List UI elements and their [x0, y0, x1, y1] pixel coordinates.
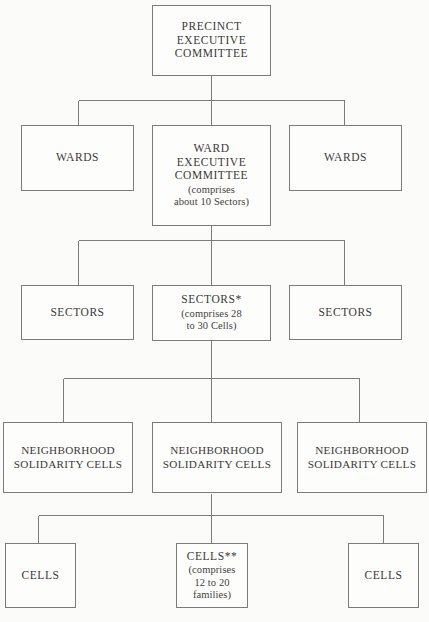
node-cells-right[interactable]: CELLS	[348, 543, 419, 608]
node-title: PRECINCT EXECUTIVE COMMITTEE	[175, 20, 248, 61]
node-title: SECTORS	[50, 306, 104, 320]
node-title: NEIGHBORHOOD SOLIDARITY CELLS	[163, 444, 272, 470]
node-title: WARD EXECUTIVE COMMITTEE	[175, 142, 248, 183]
node-title: SECTORS*	[181, 293, 241, 307]
node-sectors-right[interactable]: SECTORS	[289, 285, 402, 340]
org-chart-diagram: PRECINCT EXECUTIVE COMMITTEE WARDS WARD …	[0, 0, 429, 622]
node-title: NEIGHBORHOOD SOLIDARITY CELLS	[308, 444, 417, 470]
node-title: WARDS	[56, 151, 99, 165]
node-subtitle: (comprises about 10 Sectors)	[174, 184, 249, 209]
node-title: CELLS	[365, 569, 403, 583]
node-subtitle: (comprises 28 to 30 Cells)	[181, 308, 242, 333]
node-sectors-left[interactable]: SECTORS	[21, 285, 134, 340]
node-wards-left[interactable]: WARDS	[21, 125, 134, 191]
node-title: CELLS	[22, 569, 60, 583]
node-neighborhood-solidarity-cells-center[interactable]: NEIGHBORHOOD SOLIDARITY CELLS	[152, 422, 282, 493]
node-title: SECTORS	[318, 306, 372, 320]
node-sectors-center[interactable]: SECTORS* (comprises 28 to 30 Cells)	[152, 285, 271, 341]
node-title: CELLS**	[187, 550, 238, 564]
node-precinct-executive-committee[interactable]: PRECINCT EXECUTIVE COMMITTEE	[152, 5, 271, 76]
node-title: WARDS	[324, 151, 367, 165]
node-neighborhood-solidarity-cells-right[interactable]: NEIGHBORHOOD SOLIDARITY CELLS	[297, 422, 427, 493]
node-title: NEIGHBORHOOD SOLIDARITY CELLS	[14, 444, 123, 470]
node-cells-center[interactable]: CELLS** (comprises 12 to 20 families)	[176, 543, 248, 608]
node-wards-right[interactable]: WARDS	[289, 125, 402, 191]
node-subtitle: (comprises 12 to 20 families)	[188, 564, 235, 601]
node-cells-left[interactable]: CELLS	[5, 543, 76, 608]
node-neighborhood-solidarity-cells-left[interactable]: NEIGHBORHOOD SOLIDARITY CELLS	[3, 422, 133, 493]
node-ward-executive-committee[interactable]: WARD EXECUTIVE COMMITTEE (comprises abou…	[152, 125, 271, 226]
